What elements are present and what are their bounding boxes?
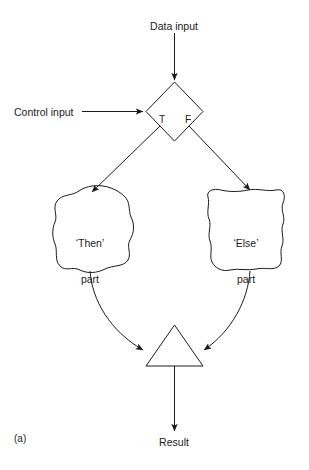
label-branch-false: F (185, 114, 191, 126)
else-part-label: ‘Else’ part (233, 213, 258, 309)
label-data-input: Data input (150, 20, 198, 32)
diagram-graphics (0, 0, 309, 470)
then-part-label-line2: part (76, 273, 105, 285)
merge-triangle (146, 325, 203, 366)
label-result: Result (159, 436, 189, 448)
edge-decision-false-to-else (189, 126, 250, 190)
then-part-label-line1: ‘Then’ (76, 237, 105, 249)
else-part-label-line2: part (233, 273, 258, 285)
label-branch-true: T (159, 114, 165, 126)
figure-canvas: Data input Control input T F ‘Then’ part… (0, 0, 309, 470)
figure-caption: (a) (14, 433, 26, 445)
then-part-label: ‘Then’ part (76, 213, 105, 309)
edge-decision-true-to-then (92, 126, 160, 192)
label-control-input: Control input (14, 106, 74, 118)
else-part-label-line1: ‘Else’ (233, 237, 258, 249)
